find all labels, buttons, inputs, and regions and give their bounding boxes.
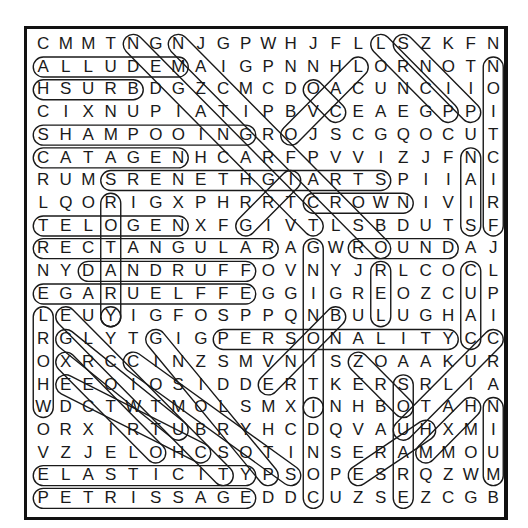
grid-cell[interactable]: U [460,351,483,374]
grid-cell[interactable]: T [280,192,303,215]
grid-cell[interactable]: E [392,101,415,124]
grid-cell[interactable]: E [235,283,258,306]
grid-cell[interactable]: L [212,237,235,260]
grid-cell[interactable]: N [167,169,190,192]
grid-cell[interactable]: R [235,192,258,215]
grid-cell[interactable]: M [437,442,460,465]
grid-cell[interactable]: L [77,56,100,79]
grid-cell[interactable]: G [415,305,438,328]
grid-cell[interactable]: U [100,56,123,79]
grid-cell[interactable]: G [280,283,303,306]
grid-cell[interactable]: C [122,351,145,374]
grid-cell[interactable]: Z [392,147,415,170]
grid-cell[interactable]: E [347,464,370,487]
grid-cell[interactable]: M [257,396,280,419]
grid-cell[interactable]: S [370,487,393,510]
grid-cell[interactable]: D [280,487,303,510]
grid-cell[interactable]: I [415,192,438,215]
grid-cell[interactable]: C [32,147,55,170]
grid-cell[interactable]: G [122,215,145,238]
grid-cell[interactable]: R [482,351,505,374]
grid-cell[interactable]: U [482,442,505,465]
grid-cell[interactable]: C [347,124,370,147]
grid-cell[interactable]: A [415,351,438,374]
grid-cell[interactable]: Z [415,33,438,56]
grid-cell[interactable]: S [145,487,168,510]
grid-cell[interactable]: U [325,487,348,510]
grid-cell[interactable]: R [32,169,55,192]
grid-cell[interactable]: A [392,351,415,374]
grid-cell[interactable]: A [190,56,213,79]
grid-cell[interactable]: N [460,147,483,170]
grid-cell[interactable]: N [167,351,190,374]
grid-cell[interactable]: Y [55,260,78,283]
grid-cell[interactable]: F [482,215,505,238]
grid-cell[interactable]: F [190,283,213,306]
grid-cell[interactable]: T [100,33,123,56]
grid-cell[interactable]: M [77,33,100,56]
grid-cell[interactable]: S [392,33,415,56]
grid-cell[interactable]: F [212,283,235,306]
grid-cell[interactable]: R [100,192,123,215]
grid-cell[interactable]: S [325,124,348,147]
grid-cell[interactable]: H [32,78,55,101]
grid-cell[interactable]: I [280,442,303,465]
grid-cell[interactable]: R [122,419,145,442]
grid-cell[interactable]: C [212,147,235,170]
grid-cell[interactable]: H [460,396,483,419]
grid-cell[interactable]: N [392,192,415,215]
grid-cell[interactable]: T [145,419,168,442]
grid-cell[interactable]: S [100,169,123,192]
grid-cell[interactable]: U [370,78,393,101]
grid-cell[interactable]: A [370,419,393,442]
grid-cell[interactable]: O [100,374,123,397]
grid-cell[interactable]: L [482,260,505,283]
grid-cell[interactable]: O [257,260,280,283]
grid-cell[interactable]: Y [235,419,258,442]
grid-cell[interactable]: F [212,215,235,238]
grid-cell[interactable]: A [347,328,370,351]
grid-cell[interactable]: D [212,374,235,397]
grid-cell[interactable]: J [415,147,438,170]
grid-cell[interactable]: N [167,147,190,170]
grid-cell[interactable]: T [302,215,325,238]
grid-cell[interactable]: P [235,33,258,56]
grid-cell[interactable]: Y [437,328,460,351]
grid-cell[interactable]: G [145,192,168,215]
grid-cell[interactable]: O [145,374,168,397]
grid-cell[interactable]: I [122,374,145,397]
grid-cell[interactable]: N [167,33,190,56]
grid-cell[interactable]: C [190,442,213,465]
grid-cell[interactable]: H [190,147,213,170]
grid-cell[interactable]: I [482,169,505,192]
grid-cell[interactable]: I [370,147,393,170]
grid-cell[interactable]: S [460,215,483,238]
grid-cell[interactable]: C [437,283,460,306]
grid-cell[interactable]: R [212,419,235,442]
grid-cell[interactable]: R [257,237,280,260]
grid-cell[interactable]: T [212,101,235,124]
grid-cell[interactable]: H [212,192,235,215]
grid-cell[interactable]: I [190,464,213,487]
grid-cell[interactable]: S [212,351,235,374]
grid-cell[interactable]: O [280,124,303,147]
grid-cell[interactable]: P [325,464,348,487]
grid-cell[interactable]: E [145,215,168,238]
grid-cell[interactable]: H [347,396,370,419]
grid-cell[interactable]: P [212,328,235,351]
grid-cell[interactable]: Z [415,487,438,510]
grid-cell[interactable]: D [302,419,325,442]
grid-cell[interactable]: E [55,305,78,328]
grid-cell[interactable]: T [257,442,280,465]
grid-cell[interactable]: F [235,260,258,283]
grid-cell[interactable]: U [460,283,483,306]
grid-cell[interactable]: I [437,169,460,192]
grid-cell[interactable]: C [32,101,55,124]
grid-cell[interactable]: U [392,237,415,260]
grid-cell[interactable]: P [392,169,415,192]
grid-cell[interactable]: U [167,419,190,442]
grid-cell[interactable]: R [32,328,55,351]
grid-cell[interactable]: R [55,419,78,442]
grid-cell[interactable]: U [190,260,213,283]
grid-cell[interactable]: A [302,169,325,192]
